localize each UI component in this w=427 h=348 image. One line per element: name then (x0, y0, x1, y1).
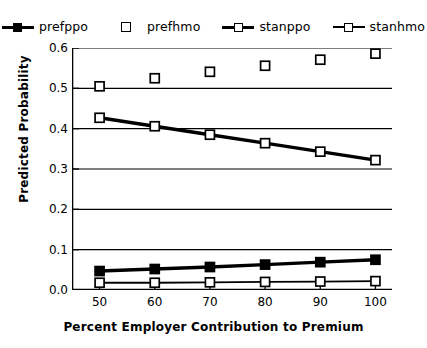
data-point-prefhmo (261, 61, 270, 70)
series-line-stanhmo (100, 281, 376, 283)
legend-marker-open-square-icon (110, 21, 142, 33)
data-point-stanhmo (150, 278, 159, 287)
chart-container: prefppo prefhmo stanppo stanhmo Predic (0, 0, 427, 348)
legend-label-stanhmo: stanhmo (370, 21, 425, 34)
chart-legend: prefppo prefhmo stanppo stanhmo (0, 16, 427, 38)
x-tick-label: 60 (135, 296, 175, 308)
legend-label-prefhmo: prefhmo (147, 21, 200, 34)
x-tick-label: 90 (300, 296, 340, 308)
data-point-stanppo (95, 113, 104, 122)
legend-item-stanhmo: stanhmo (333, 21, 425, 34)
legend-item-prefhmo: prefhmo (110, 21, 200, 34)
x-axis-title: Percent Employer Contribution to Premium (0, 320, 427, 334)
data-point-prefhmo (205, 67, 214, 76)
series-stanppo (95, 113, 380, 164)
series-prefhmo (95, 49, 380, 91)
data-point-prefhmo (316, 55, 325, 64)
plot-svg (72, 48, 392, 290)
y-axis-tick-labels: 0.60.50.40.30.20.10.0 (28, 48, 68, 290)
data-point-stanhmo (261, 277, 270, 286)
y-tick-label: 0.3 (34, 163, 68, 175)
data-point-stanhmo (371, 277, 380, 286)
data-point-stanppo (371, 156, 380, 165)
data-point-stanppo (261, 139, 270, 148)
data-point-prefppo (150, 265, 159, 274)
y-tick-label: 0.4 (34, 123, 68, 135)
data-point-prefppo (95, 267, 104, 276)
y-tick-label: 0.0 (34, 284, 68, 296)
y-tick-label: 0.2 (34, 203, 68, 215)
data-point-stanppo (316, 147, 325, 156)
data-point-prefppo (205, 263, 214, 272)
series-stanhmo (95, 277, 380, 288)
data-point-prefhmo (371, 49, 380, 58)
data-point-prefhmo (150, 74, 159, 83)
x-axis-tick-labels: 5060708090100 (72, 296, 392, 314)
y-tick-label: 0.6 (34, 42, 68, 54)
data-point-prefppo (371, 255, 380, 264)
data-point-prefhmo (95, 82, 104, 91)
x-tick-label: 70 (190, 296, 230, 308)
x-tick-label: 80 (245, 296, 285, 308)
series-line-prefppo (100, 260, 376, 271)
data-point-stanhmo (316, 277, 325, 286)
data-point-stanhmo (95, 278, 104, 287)
legend-label-prefppo: prefppo (39, 21, 88, 34)
legend-marker-open-square-thinline-icon (333, 21, 365, 33)
series-prefppo (95, 255, 380, 275)
plot-area (72, 48, 392, 290)
data-point-prefppo (261, 260, 270, 269)
legend-item-prefppo: prefppo (2, 21, 88, 34)
x-tick-label: 50 (80, 296, 120, 308)
data-point-stanppo (150, 122, 159, 131)
legend-item-stanppo: stanppo (222, 21, 310, 34)
y-tick-label: 0.1 (34, 244, 68, 256)
y-tick-label: 0.5 (34, 82, 68, 94)
series-line-stanppo (100, 118, 376, 160)
x-tick-label: 100 (355, 296, 395, 308)
data-point-stanhmo (205, 278, 214, 287)
legend-marker-open-square-line-icon (222, 21, 254, 33)
data-point-prefppo (316, 258, 325, 267)
data-point-stanppo (205, 130, 214, 139)
legend-label-stanppo: stanppo (259, 21, 310, 34)
